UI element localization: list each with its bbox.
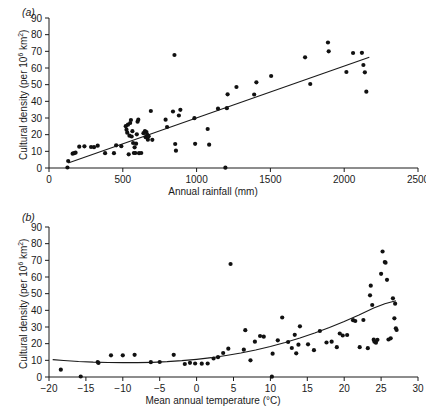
panel-b-data-point xyxy=(330,340,334,344)
panel-b-data-point xyxy=(271,352,275,356)
panel-b-data-point xyxy=(395,328,399,332)
panel-b-data-point xyxy=(253,340,257,344)
panel-a-y-tick-label: 40 xyxy=(31,96,43,107)
panel-b: (b) Cultural density (per 106 km2) −20−1… xyxy=(0,205,426,419)
panel-a-data-point xyxy=(66,159,70,163)
panel-b-data-point xyxy=(345,333,349,337)
panel-b-data-point xyxy=(158,360,162,364)
panel-a-data-point xyxy=(207,143,211,147)
panel-b-x-tick-label: 25 xyxy=(376,383,388,394)
panel-b-plot: −20−15−10−505101520253001020304050607080… xyxy=(0,205,426,419)
panel-b-data-point xyxy=(290,346,294,350)
panel-b-data-point xyxy=(258,334,262,338)
panel-b-data-point xyxy=(366,346,370,350)
panel-b-x-axis-label: Mean annual temperature (°C) xyxy=(0,395,426,406)
panel-a-data-point xyxy=(308,82,312,86)
panel-b-data-point xyxy=(228,262,232,266)
panel-b-y-tick-label: 20 xyxy=(31,338,43,349)
panel-a-data-point xyxy=(114,143,118,147)
panel-a-data-point xyxy=(165,125,169,129)
panel-b-y-tick-label: 50 xyxy=(31,288,43,299)
panel-b-data-point xyxy=(294,351,298,355)
panel-a-data-point xyxy=(103,151,107,155)
panel-a-data-point xyxy=(216,107,220,111)
panel-a-data-point xyxy=(254,80,258,84)
panel-a-data-point xyxy=(135,132,139,136)
panel-a-data-point xyxy=(303,55,307,59)
panel-b-data-point xyxy=(353,319,357,323)
panel-b-data-point xyxy=(389,336,393,340)
panel-b-data-point xyxy=(59,368,63,372)
panel-a-data-point xyxy=(82,144,86,148)
panel-a-data-point xyxy=(130,129,134,133)
panel-b-data-point xyxy=(242,348,246,352)
panel-b-data-point xyxy=(286,340,290,344)
panel-b-data-point xyxy=(200,362,204,366)
panel-b-data-point xyxy=(358,345,362,349)
panel-a-data-point xyxy=(326,40,330,44)
panel-b-data-point xyxy=(312,348,316,352)
panel-a-data-point xyxy=(96,144,100,148)
panel-b-data-point xyxy=(79,374,83,378)
panel-b-x-tick-label: 5 xyxy=(231,383,237,394)
panel-a-data-point xyxy=(192,116,196,120)
panel-b-data-point xyxy=(188,361,192,365)
panel-b-x-tick-label: −5 xyxy=(154,383,166,394)
panel-a-x-tick-label: 1500 xyxy=(259,174,282,185)
panel-b-data-point xyxy=(221,351,225,355)
panel-a-data-point xyxy=(177,113,181,117)
panel-a-data-point xyxy=(149,109,153,113)
panel-b-x-tick-label: −20 xyxy=(41,383,58,394)
panel-b-x-tick-label: 10 xyxy=(265,383,277,394)
panel-b-data-point xyxy=(270,375,274,379)
panel-b-x-tick-label: 15 xyxy=(302,383,314,394)
panel-b-data-point xyxy=(243,328,247,332)
panel-b-data-point xyxy=(335,345,339,349)
panel-a-data-point xyxy=(133,145,137,149)
panel-b-data-point xyxy=(121,353,125,357)
panel-a-y-tick-label: 20 xyxy=(31,129,43,140)
panel-b-y-tick-label: 90 xyxy=(31,222,43,233)
panel-b-data-point xyxy=(385,278,389,282)
panel-a-data-point xyxy=(206,127,210,131)
panel-a-y-tick-label: 0 xyxy=(36,163,42,174)
panel-a-x-tick-label: 2000 xyxy=(333,174,356,185)
panel-b-data-point xyxy=(369,284,373,288)
panel-a-data-point xyxy=(361,63,365,67)
panel-b-data-point xyxy=(280,315,284,319)
panel-a-data-point xyxy=(129,118,133,122)
panel-b-data-point xyxy=(96,361,100,365)
panel-a-y-tick-label: 30 xyxy=(31,113,43,124)
panel-b-data-point xyxy=(226,347,230,351)
panel-b-data-point xyxy=(341,333,345,337)
panel-a-y-tick-label: 90 xyxy=(31,13,43,24)
panel-a-y-tick-label: 70 xyxy=(31,46,43,57)
panel-b-data-point xyxy=(183,362,187,366)
panel-b-y-tick-label: 80 xyxy=(31,238,43,249)
panel-b-data-point xyxy=(370,303,374,307)
panel-a-y-tick-label: 50 xyxy=(31,79,43,90)
panel-b-x-tick-label: −15 xyxy=(77,383,94,394)
panel-a-x-axis-label: Annual rainfall (mm) xyxy=(0,186,426,197)
panel-a-x-tick-label: 1000 xyxy=(185,174,208,185)
panel-a-data-point xyxy=(127,152,131,156)
panel-a-data-point xyxy=(351,51,355,55)
panel-b-data-point xyxy=(391,296,395,300)
panel-a-data-point xyxy=(134,142,138,146)
panel-a-data-point xyxy=(164,118,168,122)
panel-b-y-tick-label: 60 xyxy=(31,272,43,283)
panel-a-data-point xyxy=(225,106,229,110)
panel-a-data-point xyxy=(171,109,175,113)
panel-a-plot: 050010001500200025000102030405060708090 xyxy=(0,0,426,210)
panel-b-data-point xyxy=(276,338,280,342)
figure-container: (a) Cultural density (per 106 km2) 05001… xyxy=(0,0,426,419)
panel-b-x-tick-label: 30 xyxy=(412,383,424,394)
panel-b-data-point xyxy=(211,356,215,360)
panel-a-data-point xyxy=(174,149,178,153)
panel-a-data-point xyxy=(223,166,227,170)
panel-a-x-tick-label: 500 xyxy=(114,174,131,185)
panel-a-data-point xyxy=(65,165,69,169)
panel-a-data-point xyxy=(234,85,238,89)
panel-a-y-tick-label: 10 xyxy=(31,146,43,157)
panel-a-data-point xyxy=(226,92,230,96)
